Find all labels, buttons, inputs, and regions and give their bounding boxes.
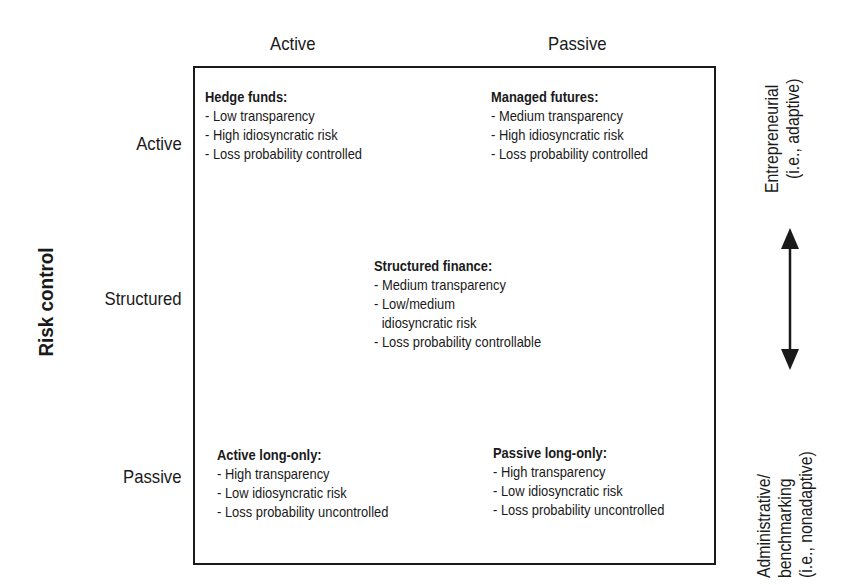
cell-active-long-only: Active long-only: - High transparency - … <box>217 445 388 521</box>
cell-item: - High transparency <box>217 464 388 483</box>
column-header-active: Active <box>270 33 316 55</box>
row-header-active: Active <box>136 133 182 155</box>
cell-item: - High transparency <box>493 462 664 481</box>
column-header-passive: Passive <box>548 33 607 55</box>
cell-title: Active long-only: <box>217 445 388 464</box>
cell-title: Managed futures: <box>491 87 648 106</box>
cell-item: - Loss probability uncontrolled <box>493 500 664 519</box>
cell-item: - Low idiosyncratic risk <box>493 481 664 500</box>
cell-title: Passive long-only: <box>493 443 664 462</box>
row-header-structured: Structured <box>105 288 182 310</box>
right-axis-bottom-label: Administrative/ benchmarking (i.e., nona… <box>754 451 817 578</box>
label-line: (i.e., nonadaptive) <box>796 451 817 578</box>
cell-item: - Loss probability controllable <box>374 332 541 351</box>
cell-item: - Loss probability controlled <box>491 144 648 163</box>
cell-item: - Medium transparency <box>491 106 648 125</box>
cell-hedge-funds: Hedge funds: - Low transparency - High i… <box>205 87 362 163</box>
right-axis-top-label: Entrepreneurial (i.e., adaptive) <box>762 79 804 193</box>
cell-title: Structured finance: <box>374 256 541 275</box>
cell-item: - High idiosyncratic risk <box>205 125 362 144</box>
label-line: Administrative/ <box>754 451 775 578</box>
cell-item: - Medium transparency <box>374 275 541 294</box>
cell-structured-finance: Structured finance: - Medium transparenc… <box>374 256 541 351</box>
label-line: benchmarking <box>775 451 796 578</box>
label-line: Entrepreneurial <box>762 79 783 193</box>
cell-item: - Low idiosyncratic risk <box>217 483 388 502</box>
cell-passive-long-only: Passive long-only: - High transparency -… <box>493 443 664 519</box>
cell-item: idiosyncratic risk <box>374 313 541 332</box>
double-arrow-icon <box>778 228 802 370</box>
cell-item: - Loss probability controlled <box>205 144 362 163</box>
cell-managed-futures: Managed futures: - Medium transparency -… <box>491 87 648 163</box>
row-header-passive: Passive <box>123 466 182 488</box>
cell-item: - High idiosyncratic risk <box>491 125 648 144</box>
y-axis-label: Risk control <box>34 247 58 356</box>
cell-item: - Low/medium <box>374 294 541 313</box>
cell-item: - Low transparency <box>205 106 362 125</box>
label-line: (i.e., adaptive) <box>783 79 804 193</box>
cell-item: - Loss probability uncontrolled <box>217 502 388 521</box>
cell-title: Hedge funds: <box>205 87 362 106</box>
